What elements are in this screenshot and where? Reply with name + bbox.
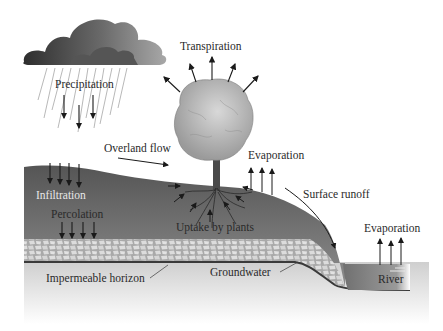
label-uptake-by-plants: Uptake by plants [176,222,254,234]
overland-flow-arrow [118,158,168,165]
label-groundwater: Groundwater [210,267,271,279]
tree-icon [174,79,253,190]
label-overland-flow: Overland flow [104,143,171,155]
evaporation-river-arrows [380,238,401,265]
label-infiltration: Infiltration [36,190,86,202]
label-precipitation: Precipitation [55,79,114,91]
label-river: River [378,274,404,286]
label-percolation: Percolation [51,209,103,221]
precipitation-arrows [64,95,93,128]
label-evaporation-river: Evaporation [364,223,420,235]
label-impermeable-horizon: Impermeable horizon [46,273,145,285]
label-transpiration: Transpiration [180,41,242,53]
label-surface-runoff: Surface runoff [303,189,370,201]
cloud-icon [23,20,166,65]
label-evaporation-land: Evaporation [248,150,304,162]
